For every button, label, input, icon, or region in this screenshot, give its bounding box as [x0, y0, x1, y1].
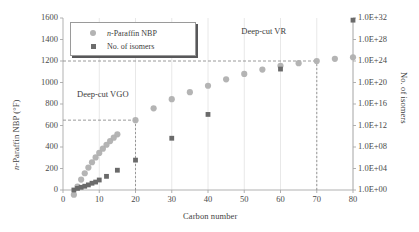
data-point-nbp [332, 56, 338, 62]
y-tick-label-left: 400 [24, 141, 58, 151]
data-point-nbp [314, 58, 320, 64]
data-point-nbp [241, 71, 247, 77]
data-point-nbp [151, 105, 157, 111]
data-point-nbp [114, 131, 120, 137]
x-tick-label: 20 [123, 194, 149, 204]
x-tick-label: 40 [195, 194, 221, 204]
data-point-nbp [132, 117, 138, 123]
legend-circle-icon [79, 30, 107, 36]
chart-figure: n-Paraffin NBP (°F) No. of isomers Carbo… [0, 0, 419, 232]
x-tick-label: 0 [50, 194, 76, 204]
y-tick-label-right: 1.0E+16 [358, 98, 402, 108]
y-tick-label-right: 1.0E+04 [358, 163, 402, 173]
x-tick-label: 60 [268, 194, 294, 204]
data-point-isomers [104, 174, 109, 179]
x-tick-label: 80 [340, 194, 366, 204]
x-tick-label: 50 [231, 194, 257, 204]
y-tick-label-right: 1.0E+20 [358, 77, 402, 87]
y-tick-label-left: 1000 [24, 77, 58, 87]
y-tick-label-right: 1.0E+08 [358, 141, 402, 151]
x-axis-title: Carbon number [183, 211, 237, 221]
data-point-nbp [85, 164, 91, 170]
annotation-deep-cut-vgo: Deep-cut VGO [77, 89, 129, 99]
data-point-nbp [205, 83, 211, 89]
legend-item-nbp: n-Paraffin NBP [79, 26, 157, 40]
y-tick-label-left: 600 [24, 120, 58, 130]
data-point-nbp [82, 170, 88, 176]
y-axis-left-title: n-Paraffin NBP (°F) [11, 100, 21, 170]
legend-square-icon [79, 44, 107, 49]
data-point-isomers [133, 158, 138, 163]
y-tick-label-left: 1400 [24, 34, 58, 44]
y-tick-label-left: 1200 [24, 55, 58, 65]
data-point-nbp [169, 96, 175, 102]
data-point-nbp [259, 67, 265, 73]
data-point-nbp [296, 60, 302, 66]
data-point-isomers [206, 112, 211, 117]
legend-item-isomers: No. of isomers [79, 39, 154, 53]
y-tick-label-left: 200 [24, 163, 58, 173]
annotation-deep-cut-vr: Deep-cut VR [241, 26, 286, 36]
data-point-nbp [187, 89, 193, 95]
data-point-isomers [351, 18, 356, 23]
x-tick-label: 30 [159, 194, 185, 204]
y-tick-label-right: 1.0E+24 [358, 55, 402, 65]
data-point-nbp [223, 76, 229, 82]
data-point-isomers [278, 67, 283, 72]
legend: n-Paraffin NBP No. of isomers [70, 22, 196, 56]
y-axis-left-title-rest: -Paraffin NBP (°F) [11, 100, 21, 166]
y-axis-left-title-italic: n [11, 166, 21, 170]
data-point-isomers [115, 168, 120, 173]
x-tick-label: 70 [304, 194, 330, 204]
y-tick-label-right: 1.0E+32 [358, 12, 402, 22]
y-tick-label-left: 800 [24, 98, 58, 108]
y-tick-label-right: 1.0E+12 [358, 120, 402, 130]
data-point-nbp [350, 54, 356, 60]
legend-item-isomers-label: No. of isomers [107, 42, 154, 51]
data-point-isomers [97, 178, 102, 183]
y-tick-label-left: 0 [24, 184, 58, 194]
y-tick-label-right: 1.0E+00 [358, 184, 402, 194]
y-tick-label-right: 1.0E+28 [358, 34, 402, 44]
legend-item-nbp-label: n-Paraffin NBP [107, 29, 157, 38]
x-tick-label: 10 [86, 194, 112, 204]
data-point-nbp [78, 176, 84, 182]
y-tick-label-left: 1600 [24, 12, 58, 22]
data-point-isomers [169, 136, 174, 141]
